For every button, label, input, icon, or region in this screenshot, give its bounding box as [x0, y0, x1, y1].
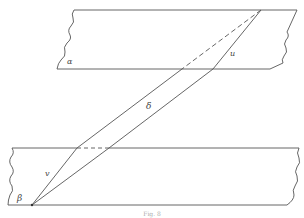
label-delta: δ — [146, 101, 151, 111]
plane-beta — [8, 148, 300, 205]
plane-alpha — [57, 10, 297, 69]
label-v: v — [45, 169, 50, 178]
label-alpha: α — [67, 57, 73, 66]
bottom-vertex-point — [31, 204, 33, 206]
figure-caption: Fig. 8 — [143, 210, 161, 218]
label-u: u — [230, 49, 235, 58]
label-beta: β — [16, 193, 22, 203]
diagram-canvas: α β u δ v Fig. 8 — [0, 0, 304, 218]
